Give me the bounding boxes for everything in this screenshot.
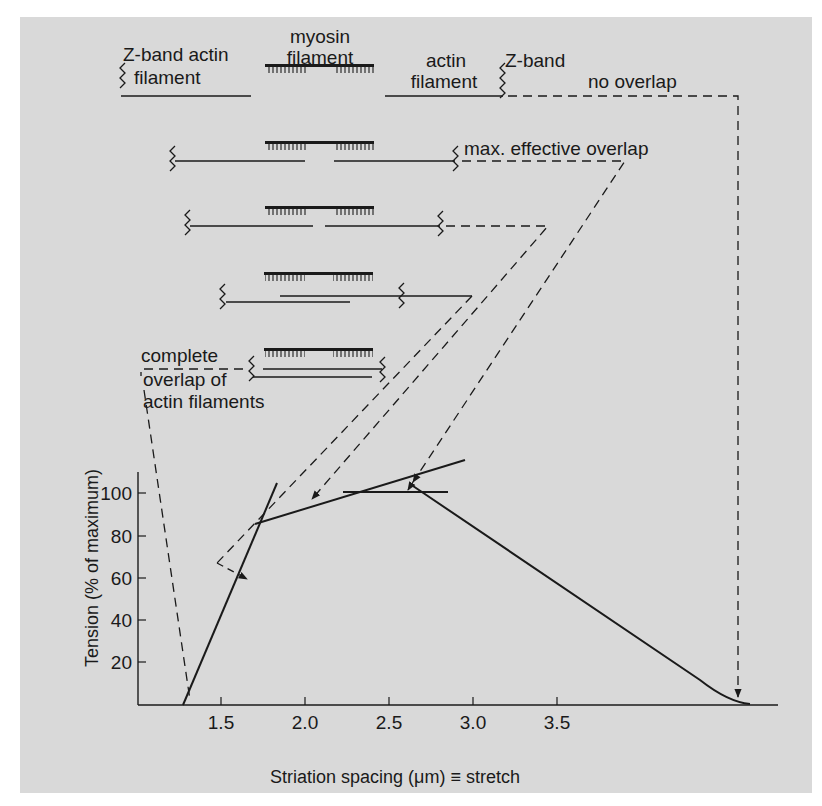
y-ticks xyxy=(138,493,146,662)
dashed-connector-complete-overlap xyxy=(141,369,243,700)
descending-limb xyxy=(413,486,750,704)
svg-text:80: 80 xyxy=(111,526,132,547)
svg-text:20: 20 xyxy=(111,652,132,673)
y-tick-labels: 100 80 60 40 20 xyxy=(100,483,132,673)
label-overlap-of: overlap of xyxy=(143,369,227,390)
schematic-labels: Z-band actin filament myosin filament ac… xyxy=(123,26,677,412)
label-myosin: myosin xyxy=(290,26,350,47)
z-band-zigzag-icon xyxy=(438,211,443,236)
z-band-zigzag-icon xyxy=(453,146,458,171)
svg-text:40: 40 xyxy=(111,610,132,631)
z-band-zigzag-icon xyxy=(185,210,190,235)
x-ticks xyxy=(221,697,557,705)
steep-ascending-limb xyxy=(183,483,277,705)
label-z-band-actin: Z-band actin xyxy=(123,44,229,65)
length-tension-graph xyxy=(138,460,778,705)
svg-text:3.5: 3.5 xyxy=(544,712,570,733)
svg-text:60: 60 xyxy=(111,568,132,589)
x-axis-label: Striation spacing (μm) ≡ stretch xyxy=(270,767,520,787)
label-max-effective-overlap: max. effective overlap xyxy=(464,138,648,159)
label-actin-filament: filament xyxy=(411,71,478,92)
label-complete: complete xyxy=(141,345,218,366)
row-double-overlap xyxy=(217,272,472,563)
z-band-zigzag-icon xyxy=(120,63,125,88)
svg-text:100: 100 xyxy=(100,483,132,504)
label-actin: actin xyxy=(426,50,466,71)
label-filament-left: filament xyxy=(134,67,201,88)
label-no-overlap: no overlap xyxy=(588,71,677,92)
dashed-connector-no-overlap xyxy=(508,96,738,697)
sarcomere-length-tension-figure: Z-band actin filament myosin filament ac… xyxy=(0,0,822,806)
svg-text:2.0: 2.0 xyxy=(292,712,318,733)
svg-text:1.5: 1.5 xyxy=(208,712,234,733)
svg-text:3.0: 3.0 xyxy=(460,712,486,733)
y-axis-label: Tension (% of maximum) xyxy=(82,469,102,667)
z-band-zigzag-icon xyxy=(170,146,175,171)
label-z-band: Z-band xyxy=(505,50,565,71)
label-myosin-filament: filament xyxy=(287,47,354,68)
x-tick-labels: 1.5 2.0 2.5 3.0 3.5 xyxy=(208,712,570,733)
row-max-effective-overlap xyxy=(170,141,625,482)
dashed-connector-row3 xyxy=(312,226,548,499)
svg-text:2.5: 2.5 xyxy=(376,712,402,733)
label-actin-filaments: actin filaments xyxy=(143,391,264,412)
dashed-connector-max-overlap xyxy=(413,161,625,482)
z-band-zigzag-icon xyxy=(220,284,225,309)
